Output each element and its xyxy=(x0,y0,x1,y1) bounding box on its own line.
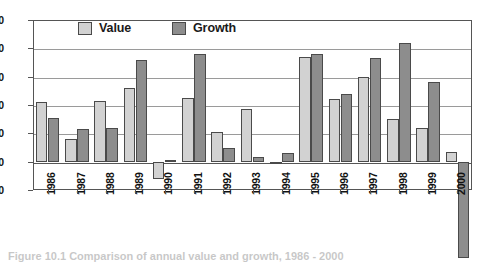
bar-value-1993 xyxy=(241,109,253,161)
bar-value-1995 xyxy=(299,57,311,162)
x-tick-mark-1986 xyxy=(48,190,49,194)
y-tick-label-10: 10 xyxy=(0,128,4,139)
legend-label-value: Value xyxy=(99,21,131,35)
y-tick-label--10: -10 xyxy=(0,185,4,196)
x-tick-mark-1993 xyxy=(253,190,254,194)
bar-growth-1991 xyxy=(194,54,206,162)
x-tick-mark-2000 xyxy=(457,190,458,194)
x-tick-mark-1998 xyxy=(399,190,400,194)
bar-growth-1992 xyxy=(223,148,235,162)
caption-clip: Figure 10.1 Comparison of annual value a… xyxy=(0,252,483,264)
x-tick-mark-1995 xyxy=(311,190,312,194)
bar-chart: 50403020100-10 1986198719881989199019911… xyxy=(0,0,483,264)
bar-value-1998 xyxy=(387,119,399,162)
x-tick-mark-1988 xyxy=(106,190,107,194)
bar-growth-1989 xyxy=(136,60,148,162)
x-tick-mark-1999 xyxy=(428,190,429,194)
bar-value-1992 xyxy=(211,132,223,162)
bar-growth-1995 xyxy=(311,54,323,162)
bar-value-1989 xyxy=(124,88,136,162)
x-tick-mark-1994 xyxy=(282,190,283,194)
y-tick-label-40: 40 xyxy=(0,43,4,54)
bar-growth-1988 xyxy=(106,128,118,162)
bar-growth-1998 xyxy=(399,43,411,162)
bar-value-1996 xyxy=(329,99,341,161)
bar-growth-1996 xyxy=(341,94,353,162)
bar-growth-1986 xyxy=(48,118,60,162)
bar-growth-1993 xyxy=(253,157,265,161)
x-tick-mark-1989 xyxy=(135,190,136,194)
legend-swatch-growth-icon xyxy=(172,22,186,35)
bar-growth-1990 xyxy=(165,160,177,162)
bar-value-1988 xyxy=(94,101,106,162)
bar-value-1986 xyxy=(36,102,48,162)
bar-value-1994 xyxy=(270,162,282,164)
x-tick-mark-1992 xyxy=(223,190,224,194)
x-tick-mark-1996 xyxy=(340,190,341,194)
bar-growth-1999 xyxy=(428,82,440,161)
bar-value-2000 xyxy=(446,152,458,162)
legend-swatch-value-icon xyxy=(78,22,92,35)
y-tick-label-20: 20 xyxy=(0,100,4,111)
bar-value-1991 xyxy=(182,98,194,162)
bar-value-1997 xyxy=(358,77,370,162)
legend-item-growth: Growth xyxy=(172,21,236,35)
bar-growth-1987 xyxy=(77,129,89,162)
bar-growth-1997 xyxy=(370,58,382,161)
y-tick-label-0: 0 xyxy=(0,157,4,168)
y-tick-label-30: 30 xyxy=(0,72,4,83)
x-tick-mark-1991 xyxy=(194,190,195,194)
x-tick-mark-1987 xyxy=(77,190,78,194)
x-tick-mark-1997 xyxy=(370,190,371,194)
bar-value-1999 xyxy=(416,128,428,162)
legend-item-value: Value xyxy=(78,21,131,35)
bar-value-1987 xyxy=(65,139,77,162)
bar-growth-1994 xyxy=(282,153,294,162)
x-tick-mark-1990 xyxy=(165,190,166,194)
bars-layer xyxy=(33,20,472,264)
y-tick-label-50: 50 xyxy=(0,15,4,26)
figure-caption: Figure 10.1 Comparison of annual value a… xyxy=(8,252,344,262)
legend-label-growth: Growth xyxy=(193,21,236,35)
